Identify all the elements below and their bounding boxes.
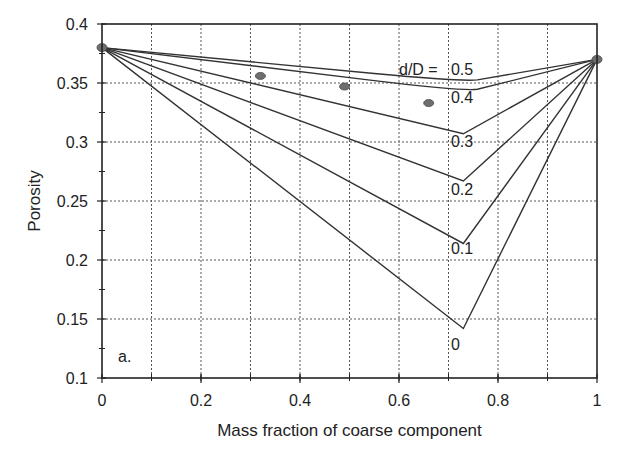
y-tick-label: 0.35 bbox=[57, 75, 88, 92]
x-tick-label: 0.2 bbox=[190, 392, 212, 409]
y-tick-label: 0.15 bbox=[57, 311, 88, 328]
y-tick-label: 0.25 bbox=[57, 193, 88, 210]
curve-label: 0.4 bbox=[451, 89, 473, 106]
y-tick-label: 0.3 bbox=[66, 134, 88, 151]
curve-label: 0.3 bbox=[451, 133, 473, 150]
curve-labels: d/D =0.50.40.30.20.10 bbox=[399, 61, 473, 353]
y-tick-label: 0.2 bbox=[66, 252, 88, 269]
y-tick-label: 0.1 bbox=[66, 370, 88, 387]
curve-label: 0.5 bbox=[451, 61, 473, 78]
measured-point bbox=[340, 83, 350, 90]
curve-label: 0.2 bbox=[451, 181, 473, 198]
x-axis-label: Mass fraction of coarse component bbox=[217, 421, 482, 440]
panel-label: a. bbox=[118, 348, 131, 365]
curve-label: d/D = bbox=[399, 61, 438, 78]
y-tick-label: 0.4 bbox=[66, 16, 88, 33]
x-tick-label: 0.4 bbox=[289, 392, 311, 409]
y-axis-label: Porosity bbox=[25, 170, 44, 232]
porosity-chart: 00.20.40.60.810.10.150.20.250.30.350.4 d… bbox=[0, 0, 618, 449]
x-tick-label: 0 bbox=[98, 392, 107, 409]
curve-label: 0.1 bbox=[451, 240, 473, 257]
curve-label: 0 bbox=[451, 336, 460, 353]
x-tick-label: 1 bbox=[593, 392, 602, 409]
x-tick-label: 0.8 bbox=[487, 392, 509, 409]
measured-point bbox=[424, 100, 434, 107]
x-tick-label: 0.6 bbox=[388, 392, 410, 409]
chart-canvas: 00.20.40.60.810.10.150.20.250.30.350.4 d… bbox=[0, 0, 618, 449]
measured-point bbox=[255, 72, 265, 79]
